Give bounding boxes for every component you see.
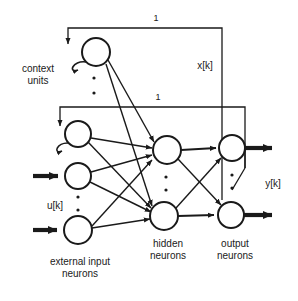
ellipsis-output (230, 186, 233, 189)
neuron-input-2 (64, 216, 92, 244)
neuron-output-2 (218, 202, 244, 228)
label-input-signal: u[k] (38, 200, 72, 212)
neuron-hidden-2 (150, 202, 178, 230)
self-loop-context-1 (72, 62, 86, 71)
neuron-context-1 (82, 38, 110, 66)
ellipsis-input (76, 195, 79, 198)
label-hidden-neurons: hidden neurons (137, 238, 199, 261)
label-output-signal: y[k] (256, 178, 290, 190)
label-external-input-neurons: external input neurons (22, 256, 138, 279)
edges-hidden-to-output-cross (176, 158, 221, 208)
label-output-neurons: output neurons (204, 238, 266, 261)
ellipsis-context (92, 76, 95, 79)
ellipsis-input (76, 208, 79, 211)
self-loop-context-2 (57, 143, 69, 152)
edges-input2-to-hidden (92, 160, 152, 228)
network-diagram-canvas: context units external input neurons hid… (0, 0, 298, 301)
ellipsis-output (230, 173, 233, 176)
label-state-signal: x[k] (188, 60, 222, 72)
edges-hidden-to-output (178, 148, 216, 216)
edges-input1-to-hidden (90, 155, 152, 212)
ellipsis-hidden (164, 175, 167, 178)
neuron-output-1 (219, 135, 245, 161)
label-feedback-weight-bottom: 1 (152, 92, 164, 104)
neuron-hidden-1 (153, 136, 181, 164)
label-context-units: context units (8, 63, 68, 86)
ellipsis-hidden (164, 188, 167, 191)
neuron-context-2 (65, 121, 91, 147)
label-feedback-weight-top: 1 (150, 13, 162, 25)
ellipsis-context (92, 91, 95, 94)
neuron-input-1 (65, 163, 91, 189)
